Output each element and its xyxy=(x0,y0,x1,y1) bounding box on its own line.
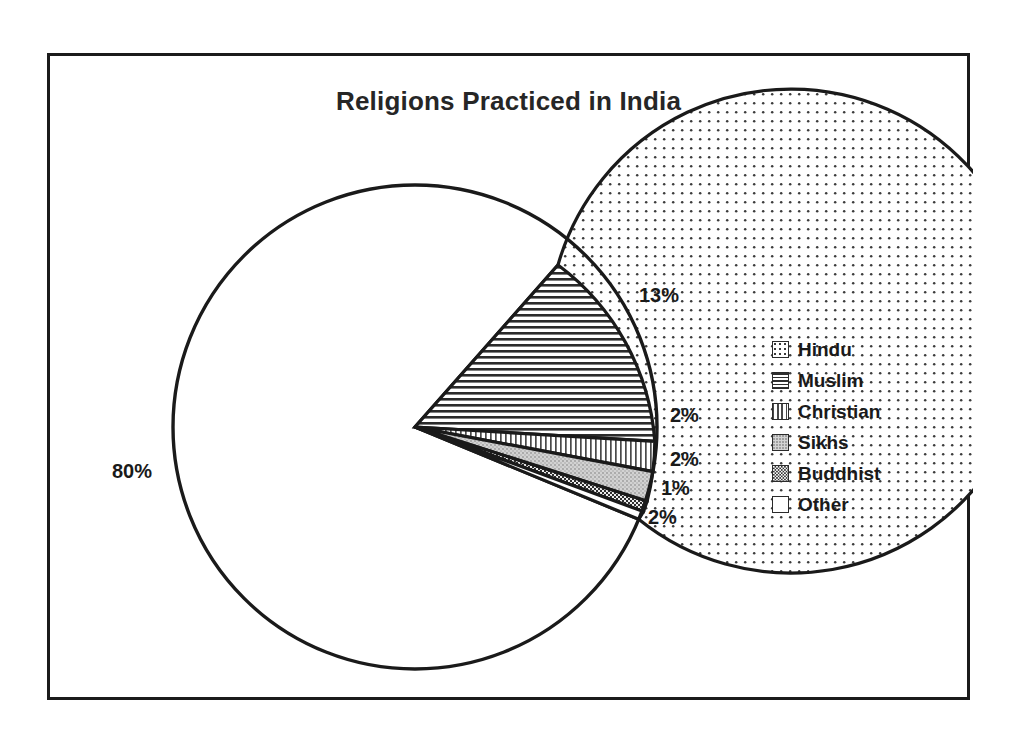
light-gray-dots-swatch-icon xyxy=(772,434,789,451)
legend-label-christian: Christian xyxy=(798,402,880,421)
data-label-buddhist: 1% xyxy=(661,477,690,500)
legend-label-buddhist: Buddhist xyxy=(798,464,880,483)
legend-item-buddhist[interactable]: Buddhist xyxy=(772,458,962,489)
sparse-dots-swatch-icon xyxy=(772,341,789,358)
chart-page: Religions Practiced in India xyxy=(0,0,1010,748)
vertical-lines-swatch-icon xyxy=(772,403,789,420)
legend-label-muslim: Muslim xyxy=(798,371,863,390)
data-label-other: 2% xyxy=(648,506,677,529)
chart-legend: Hindu Muslim Christian Sikhs Buddhist Ot xyxy=(772,334,962,520)
data-label-hindu: 80% xyxy=(112,460,152,483)
legend-label-hindu: Hindu xyxy=(798,340,852,359)
legend-item-sikhs[interactable]: Sikhs xyxy=(772,427,962,458)
dark-checkerboard-swatch-icon xyxy=(772,465,789,482)
legend-item-christian[interactable]: Christian xyxy=(772,396,962,427)
data-label-christian: 2% xyxy=(670,404,699,427)
chart-frame: Religions Practiced in India xyxy=(47,53,970,700)
horizontal-lines-swatch-icon xyxy=(772,372,789,389)
legend-item-other[interactable]: Other xyxy=(772,489,962,520)
legend-item-muslim[interactable]: Muslim xyxy=(772,365,962,396)
data-label-muslim: 13% xyxy=(639,284,679,307)
legend-item-hindu[interactable]: Hindu xyxy=(772,334,962,365)
legend-label-other: Other xyxy=(798,495,849,514)
legend-label-sikhs: Sikhs xyxy=(798,433,849,452)
data-label-sikhs: 2% xyxy=(670,448,699,471)
white-solid-swatch-icon xyxy=(772,496,789,513)
